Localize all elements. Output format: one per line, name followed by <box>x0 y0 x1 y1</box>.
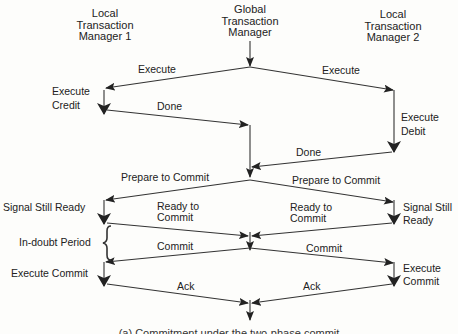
participant-ltm2: Local Transaction Manager 2 <box>358 9 428 44</box>
figure-caption: (a) Commitment under the two-phase commi… <box>0 327 458 334</box>
in-doubt-period-label: In-doubt Period <box>19 237 91 248</box>
participant-gtm: Global Transaction Manager <box>215 4 285 39</box>
msg-ack-left: Ack <box>177 281 195 292</box>
action-signal-ready-right: Signal Still Ready <box>403 201 452 227</box>
msg-ready-left: Ready to Commit <box>157 201 199 223</box>
action-execute-debit-line1: Execute <box>401 110 439 124</box>
msg-execute-left: Execute <box>138 64 176 75</box>
msg-execute-right: Execute <box>322 65 360 76</box>
participant-gtm-line3: Manager <box>215 27 285 39</box>
msg-commit-left: Commit <box>157 241 193 252</box>
msg-prepare-right: Prepare to Commit <box>292 175 380 186</box>
action-execute-commit-left: Execute Commit <box>11 268 88 279</box>
participant-gtm-line1: Global <box>215 4 285 16</box>
action-signal-ready-left: Signal Still Ready <box>3 202 85 213</box>
msg-ready-right-line2: Commit <box>290 213 332 224</box>
two-phase-commit-diagram: Local Transaction Manager 1 Global Trans… <box>0 0 458 334</box>
participant-ltm2-line1: Local <box>358 9 428 21</box>
action-execute-debit-line2: Debit <box>401 124 439 138</box>
action-execute-commit-right-line2: Commit <box>403 275 441 288</box>
diagram-arrows <box>0 0 458 334</box>
participant-ltm2-line3: Manager 2 <box>358 32 428 44</box>
participant-ltm1: Local Transaction Manager 1 <box>70 8 140 43</box>
action-signal-ready-right-line2: Ready <box>403 214 452 227</box>
participant-ltm1-line1: Local <box>70 8 140 20</box>
action-signal-ready-right-line1: Signal Still <box>403 201 452 214</box>
action-execute-credit-line1: Execute <box>52 84 90 98</box>
action-execute-debit: Execute Debit <box>401 110 439 138</box>
msg-ready-left-line2: Commit <box>157 212 199 223</box>
action-execute-commit-right: Execute Commit <box>403 262 441 288</box>
action-execute-credit: Execute Credit <box>52 84 90 112</box>
participant-ltm1-line3: Manager 1 <box>70 31 140 43</box>
msg-ready-right: Ready to Commit <box>290 202 332 224</box>
action-execute-credit-line2: Credit <box>52 98 90 112</box>
msg-done-left: Done <box>157 101 182 112</box>
msg-ack-right: Ack <box>303 281 321 292</box>
msg-done-right: Done <box>296 147 321 158</box>
action-execute-commit-right-line1: Execute <box>403 262 441 275</box>
msg-commit-right: Commit <box>306 243 342 254</box>
msg-prepare-left: Prepare to Commit <box>121 172 209 183</box>
